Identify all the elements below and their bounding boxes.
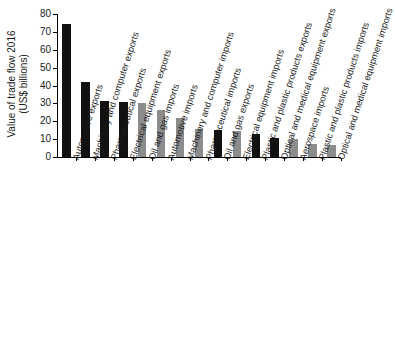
y-axis-title-line1: Value of trade flow 2016 [6, 30, 17, 137]
y-tick-mark [53, 68, 57, 69]
y-axis-title: Value of trade flow 2016 (US$ billions) [6, 30, 30, 137]
bar [62, 24, 71, 157]
y-tick-label: 60 [40, 44, 51, 55]
y-tick-label: 50 [40, 62, 51, 73]
y-tick-label: 10 [40, 133, 51, 144]
y-tick-mark [53, 32, 57, 33]
y-axis-title-line2: (US$ billions) [18, 30, 30, 137]
y-tick-label: 20 [40, 115, 51, 126]
y-tick-mark [53, 50, 57, 51]
y-tick-label: 80 [40, 8, 51, 19]
y-tick-label: 0 [45, 151, 51, 162]
y-tick-label: 40 [40, 80, 51, 91]
y-axis-title-wrap: Value of trade flow 2016 (US$ billions) [0, 8, 36, 160]
y-tick-mark [53, 121, 57, 122]
y-axis-line [57, 14, 58, 158]
y-tick-label: 70 [40, 26, 51, 37]
y-tick-label: 30 [40, 97, 51, 108]
y-tick-mark [53, 14, 57, 15]
y-tick-mark [53, 103, 57, 104]
y-tick-mark [53, 86, 57, 87]
y-tick-mark [53, 139, 57, 140]
x-axis-labels: Automotive exportsMachinery and computer… [57, 158, 349, 356]
